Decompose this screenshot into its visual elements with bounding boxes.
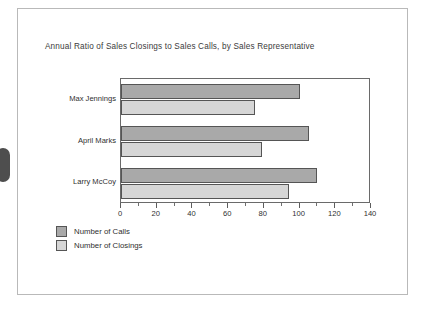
bar-april-marks-number-of-closings: [121, 142, 262, 157]
chart-legend: Number of CallsNumber of Closings: [56, 224, 142, 252]
x-tick-label-140: 140: [364, 209, 377, 218]
bar-larry-mccoy-number-of-closings: [121, 184, 289, 199]
x-tick-label-120: 120: [328, 209, 341, 218]
x-tick-label-20: 20: [151, 209, 159, 218]
scan-binding-mark: [0, 148, 10, 182]
category-label-larry-mccoy: Larry McCoy: [73, 177, 116, 186]
plot-area: [120, 78, 370, 203]
category-label-april-marks: April Marks: [78, 136, 116, 145]
bar-max-jennings-number-of-calls: [121, 84, 300, 99]
x-tick-20: [156, 203, 157, 208]
x-minor-tick-110: [316, 203, 317, 206]
x-tick-60: [227, 203, 228, 208]
x-tick-label-80: 80: [259, 209, 267, 218]
legend-label: Number of Closings: [74, 241, 142, 250]
legend-item-number-of-calls: Number of Calls: [56, 224, 142, 238]
x-tick-label-40: 40: [187, 209, 195, 218]
category-label-max-jennings: Max Jennings: [69, 94, 116, 103]
x-tick-100: [299, 203, 300, 208]
x-tick-0: [120, 203, 121, 208]
x-tick-label-0: 0: [118, 209, 122, 218]
x-tick-80: [263, 203, 264, 208]
legend-swatch-icon: [56, 226, 67, 237]
x-tick-140: [370, 203, 371, 208]
x-minor-tick-50: [209, 203, 210, 206]
x-tick-label-60: 60: [223, 209, 231, 218]
bar-april-marks-number-of-calls: [121, 126, 309, 141]
x-minor-tick-10: [138, 203, 139, 206]
x-minor-tick-30: [174, 203, 175, 206]
bar-max-jennings-number-of-closings: [121, 100, 255, 115]
x-minor-tick-90: [281, 203, 282, 206]
legend-label: Number of Calls: [74, 227, 130, 236]
x-minor-tick-70: [245, 203, 246, 206]
x-tick-label-100: 100: [292, 209, 305, 218]
legend-swatch-icon: [56, 240, 67, 251]
chart-title: Annual Ratio of Sales Closings to Sales …: [45, 42, 315, 51]
x-tick-40: [191, 203, 192, 208]
x-tick-120: [334, 203, 335, 208]
legend-item-number-of-closings: Number of Closings: [56, 238, 142, 252]
category-axis-labels: Max JenningsApril MarksLarry McCoy: [40, 78, 116, 203]
x-axis: 020406080100120140: [120, 203, 370, 223]
bar-larry-mccoy-number-of-calls: [121, 168, 317, 183]
x-minor-tick-130: [352, 203, 353, 206]
